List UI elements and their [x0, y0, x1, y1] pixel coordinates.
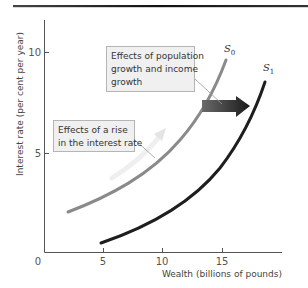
- x-tick-label-15: 15: [216, 256, 229, 267]
- y-axis-label: Interest rate (per cent per year): [15, 32, 25, 176]
- y-tick-label-10: 10: [28, 47, 41, 58]
- y-tick-label-5: 5: [35, 148, 41, 159]
- y-ticks: 10 5: [28, 47, 49, 159]
- annotation-shift: Effects of population growth and income …: [107, 47, 204, 92]
- x-axis-label: Wealth (billions of pounds): [162, 269, 282, 279]
- x-ticks: 0 5 10 15: [35, 248, 229, 267]
- s1-label: S1: [263, 62, 274, 76]
- top-rule: [13, 5, 308, 7]
- s0-label: S0: [224, 43, 235, 57]
- x-tick-label-0: 0: [35, 256, 41, 267]
- wealth-supply-chart: 10 5 0 5 10 15 Wealth (billions of pound…: [0, 0, 308, 288]
- annotation-movement-line-2: in the interest rate: [58, 138, 143, 148]
- annotation-shift-line-1: Effects of population: [111, 51, 204, 61]
- x-tick-label-10: 10: [156, 256, 169, 267]
- annotation-shift-line-3: growth: [111, 77, 142, 87]
- annotation-movement: Effects of a rise in the interest rate: [54, 121, 143, 152]
- x-tick-label-5: 5: [100, 256, 106, 267]
- annotation-movement-line-1: Effects of a rise: [58, 125, 128, 135]
- annotation-shift-line-2: growth and income: [111, 64, 198, 74]
